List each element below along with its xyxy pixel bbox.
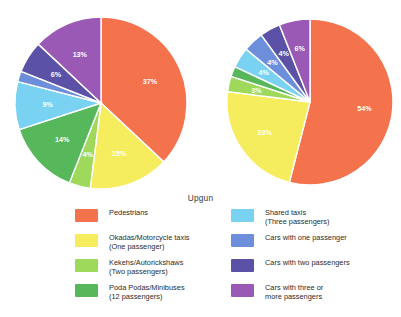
pie-slice-label: 4% <box>267 58 278 67</box>
legend-column-left: PedestriansOkadas/Motorcycle taxis (One … <box>0 208 225 313</box>
legend-label: Kekehs/Autorickshaws (Two passengers) <box>109 258 183 277</box>
pie-slice-label: 9% <box>43 100 54 109</box>
legend-item[interactable]: Cars with one passenger <box>231 233 401 254</box>
legend-item[interactable]: Pedestrians <box>75 208 225 229</box>
pie-slice-label: 37% <box>143 77 158 86</box>
legend-swatch-poda-podas <box>75 284 98 297</box>
pie-slice-label: 14% <box>55 135 70 144</box>
legend-item[interactable]: Poda Podas/Minibuses (12 passengers) <box>75 283 225 304</box>
legend-label: Cars with two passengers <box>265 258 350 267</box>
legend-label: Cars with one passenger <box>265 233 347 242</box>
pie-slice-label: 4% <box>259 68 270 77</box>
legend-item[interactable]: Okadas/Motorcycle taxis (One passenger) <box>75 233 225 254</box>
pie-right-slices <box>227 19 393 185</box>
legend-swatch-pedestrians <box>75 209 98 222</box>
pie-slice-label: 6% <box>51 70 62 79</box>
legend-label: Pedestrians <box>109 208 148 217</box>
pie-slice-label: 4% <box>278 49 289 58</box>
legend-item[interactable]: Cars with three or more passengers <box>231 283 401 304</box>
legend-item[interactable]: Cars with two passengers <box>231 258 401 279</box>
pie-slice-label: 54% <box>357 104 372 113</box>
pie-slice-label: 3% <box>251 86 262 95</box>
pie-slice-label: 15% <box>112 149 127 158</box>
pie-slice-label: 13% <box>73 50 88 59</box>
legend-swatch-okadas <box>75 234 98 247</box>
pie-slice-label: 6% <box>295 44 306 53</box>
pie-chart-left: 37%15%4%14%9%2%6%13% <box>10 14 192 192</box>
pie-left-slices <box>15 17 187 189</box>
legend-column-right: Shared taxis (Three passengers)Cars with… <box>225 208 401 313</box>
legend-swatch-cars-two <box>231 259 254 272</box>
legend-label: Poda Podas/Minibuses (12 passengers) <box>109 283 185 302</box>
legend-swatch-kekehs <box>75 259 98 272</box>
legend: PedestriansOkadas/Motorcycle taxis (One … <box>0 208 401 313</box>
legend-swatch-shared-taxis <box>231 209 254 222</box>
legend-label: Okadas/Motorcycle taxis (One passenger) <box>109 233 190 252</box>
legend-swatch-cars-three-plus <box>231 284 254 297</box>
pie-right-svg: 54%23%3%2%4%4%4%6% <box>224 16 396 188</box>
pie-chart-right: 54%23%3%2%4%4%4%6% <box>224 16 396 188</box>
legend-label: Cars with three or more passengers <box>265 283 323 302</box>
charts-container: 37%15%4%14%9%2%6%13% 54%23%3%2%4%4%4%6% <box>0 0 401 196</box>
pie-slice-label: 4% <box>83 150 94 159</box>
legend-item[interactable]: Shared taxis (Three passengers) <box>231 208 401 229</box>
pie-slice-label: 23% <box>257 128 272 137</box>
legend-swatch-cars-one <box>231 234 254 247</box>
legend-label: Shared taxis (Three passengers) <box>265 208 330 227</box>
legend-item[interactable]: Kekehs/Autorickshaws (Two passengers) <box>75 258 225 279</box>
pie-left-svg: 37%15%4%14%9%2%6%13% <box>10 14 192 192</box>
chart-caption: Upgun <box>0 193 401 203</box>
